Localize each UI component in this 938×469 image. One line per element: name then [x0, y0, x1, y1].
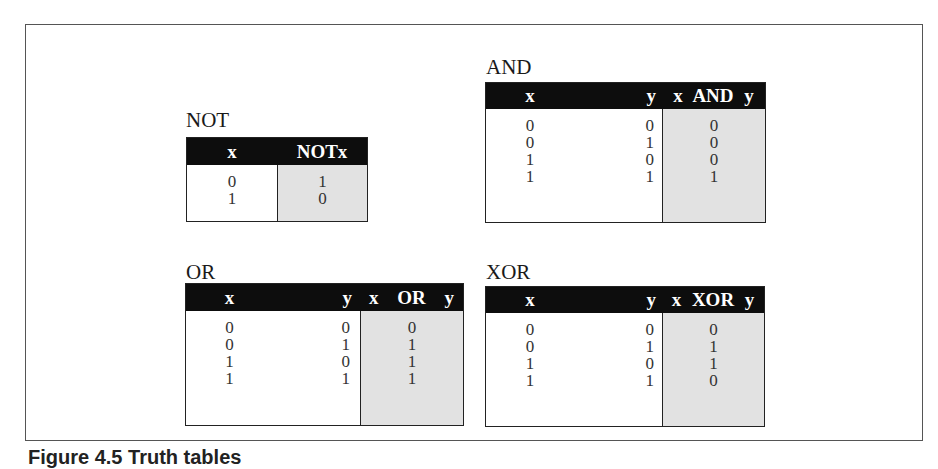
- cell: 0: [342, 319, 351, 336]
- cell: 0: [526, 338, 535, 355]
- xor-header-y: y: [574, 287, 662, 313]
- xor-header-x: x: [486, 287, 574, 313]
- xor-truth-table: x y x XOR y 0 0 1 1 0 1 0 1 0 1 1 0: [485, 286, 765, 427]
- and-header-y: y: [574, 83, 662, 109]
- cell: 1: [408, 336, 417, 353]
- and-header-out: x AND y: [662, 83, 765, 109]
- cell: 0: [408, 319, 417, 336]
- cell: 0: [710, 151, 719, 168]
- cell: 1: [408, 370, 417, 387]
- cell: 0: [646, 355, 655, 372]
- cell: 0: [710, 117, 719, 134]
- cell: 0: [225, 319, 234, 336]
- cell: 0: [646, 321, 655, 338]
- cell: 0: [342, 353, 351, 370]
- cell: 0: [318, 190, 327, 207]
- cell: 1: [646, 338, 655, 355]
- or-column-y: 0 1 0 1: [273, 311, 360, 425]
- cell: 1: [526, 168, 535, 185]
- cell: 1: [225, 370, 234, 387]
- cell: 0: [225, 336, 234, 353]
- cell: 1: [646, 134, 655, 151]
- cell: 0: [526, 117, 535, 134]
- and-column-y: 0 1 0 1: [574, 109, 662, 222]
- cell: 0: [526, 321, 535, 338]
- or-header-y: y: [273, 284, 360, 311]
- or-table-title: OR: [186, 262, 215, 283]
- or-column-out: 0 1 1 1: [360, 311, 463, 425]
- not-table-title: NOT: [186, 110, 229, 131]
- figure-frame: [25, 24, 923, 441]
- cell: 1: [342, 336, 351, 353]
- cell: 1: [709, 355, 718, 372]
- xor-header-out: x XOR y: [662, 287, 764, 313]
- cell: 1: [709, 338, 718, 355]
- not-column-out: 1 0: [277, 165, 367, 221]
- cell: 0: [710, 134, 719, 151]
- cell: 1: [526, 372, 535, 389]
- cell: 1: [646, 168, 655, 185]
- not-header-x: x: [187, 138, 277, 165]
- cell: 1: [225, 353, 234, 370]
- cell: 0: [228, 173, 237, 190]
- not-column-x: 0 1: [187, 165, 277, 221]
- cell: 1: [342, 370, 351, 387]
- xor-column-x: 0 0 1 1: [486, 313, 574, 426]
- and-column-out: 0 0 0 1: [662, 109, 765, 222]
- xor-column-out: 0 1 1 0: [662, 313, 764, 426]
- not-truth-table: x NOTx 0 1 1 0: [186, 137, 368, 222]
- xor-column-y: 0 1 0 1: [574, 313, 662, 426]
- cell: 1: [526, 355, 535, 372]
- cell: 1: [318, 173, 327, 190]
- cell: 1: [228, 190, 237, 207]
- cell: 0: [709, 321, 718, 338]
- and-column-x: 0 0 1 1: [486, 109, 574, 222]
- and-table-title: AND: [486, 57, 532, 78]
- cell: 0: [646, 151, 655, 168]
- or-header-out: x OR y: [360, 284, 463, 311]
- xor-table-title: XOR: [486, 262, 530, 283]
- cell: 1: [710, 168, 719, 185]
- cell: 1: [526, 151, 535, 168]
- cell: 0: [709, 372, 718, 389]
- or-column-x: 0 0 1 1: [186, 311, 273, 425]
- cell: 0: [646, 117, 655, 134]
- cell: 1: [646, 372, 655, 389]
- or-header-x: x: [186, 284, 273, 311]
- figure-caption: Figure 4.5 Truth tables: [28, 446, 241, 469]
- cell: 1: [408, 353, 417, 370]
- or-truth-table: x y x OR y 0 0 1 1 0 1 0 1 0 1 1 1: [185, 283, 464, 426]
- cell: 0: [526, 134, 535, 151]
- not-header-out: NOTx: [277, 138, 367, 165]
- and-truth-table: x y x AND y 0 0 1 1 0 1 0 1 0 0 0 1: [485, 82, 766, 223]
- and-header-x: x: [486, 83, 574, 109]
